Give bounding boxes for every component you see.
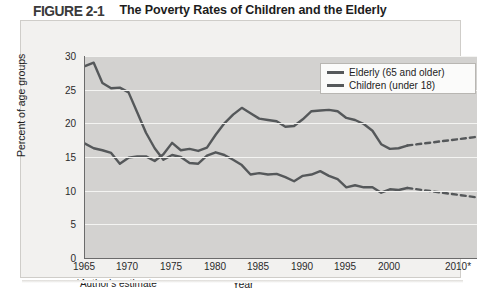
- legend-label-elderly: Elderly (65 and older): [349, 67, 445, 78]
- figure-title-bar: FIGURE 2-1 The Poverty Rates of Children…: [0, 0, 477, 20]
- figure-container: FIGURE 2-1 The Poverty Rates of Children…: [0, 0, 477, 299]
- gridline-10: [85, 191, 477, 192]
- y-tick-15: 15: [50, 152, 76, 163]
- chart-legend: Elderly (65 and older) Children (under 1…: [320, 63, 476, 94]
- gridline-20: [85, 123, 477, 124]
- figure-number-label: FIGURE 2-1: [33, 2, 104, 19]
- page-title: The Poverty Rates of Children and the El…: [120, 3, 387, 17]
- gridline-5: [85, 224, 477, 225]
- x-tick-2000: 2000: [378, 261, 400, 272]
- x-tick-1995: 1995: [334, 261, 356, 272]
- x-tick-2010: 2010*: [445, 261, 471, 272]
- y-tick-5: 5: [50, 219, 76, 230]
- legend-item-elderly: Elderly (65 and older): [327, 66, 475, 79]
- x-tick-1980: 1980: [204, 261, 226, 272]
- x-tick-1985: 1985: [247, 261, 269, 272]
- y-axis-title: Percent of age groups: [15, 54, 27, 157]
- legend-label-children: Children (under 18): [349, 80, 435, 91]
- legend-swatch-icon: [327, 84, 344, 87]
- y-tick-30: 30: [50, 51, 76, 62]
- x-tick-1965: 1965: [73, 261, 95, 272]
- x-tick-1970: 1970: [116, 261, 138, 272]
- legend-swatch-icon: [327, 71, 344, 74]
- y-tick-20: 20: [50, 118, 76, 129]
- y-tick-25: 25: [50, 85, 76, 96]
- panel-shadow: [22, 280, 463, 283]
- x-tick-1975: 1975: [160, 261, 182, 272]
- x-tick-1990: 1990: [291, 261, 313, 272]
- y-tick-10: 10: [50, 186, 76, 197]
- legend-item-children: Children (under 18): [327, 79, 475, 92]
- gridline-15: [85, 157, 477, 158]
- gridline-30: [85, 56, 477, 57]
- figure-panel: Percent of age groups 30 25 20 15 10 5 0…: [20, 20, 461, 278]
